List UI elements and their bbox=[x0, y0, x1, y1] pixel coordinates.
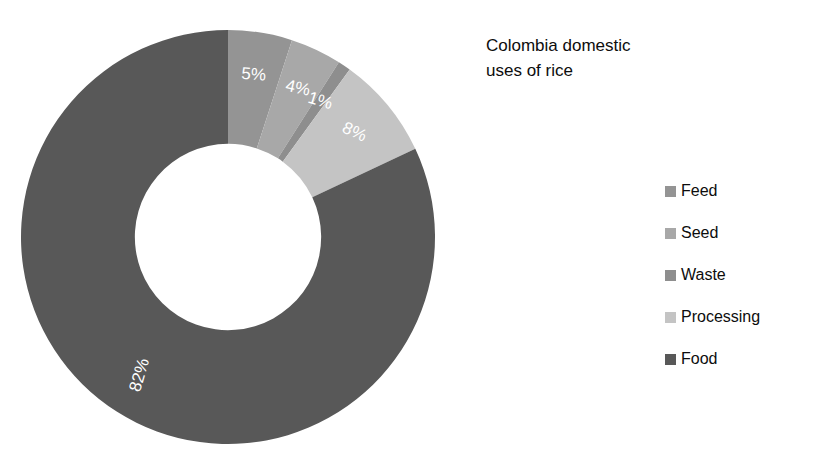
legend-swatch-icon bbox=[665, 354, 676, 365]
legend-item-waste[interactable]: Waste bbox=[665, 254, 810, 296]
chart-legend: FeedSeedWasteProcessingFood bbox=[665, 170, 810, 380]
legend-swatch-icon bbox=[665, 270, 676, 281]
legend-swatch-icon bbox=[665, 312, 676, 323]
legend-swatch-icon bbox=[665, 186, 676, 197]
legend-item-food[interactable]: Food bbox=[665, 338, 810, 380]
legend-item-label: Waste bbox=[681, 267, 726, 283]
legend-item-processing[interactable]: Processing bbox=[665, 296, 810, 338]
page-title: Colombia domestic uses of rice bbox=[486, 33, 716, 83]
legend-item-label: Seed bbox=[681, 225, 718, 241]
legend-swatch-icon bbox=[665, 228, 676, 239]
legend-item-seed[interactable]: Seed bbox=[665, 212, 810, 254]
donut-slice-group bbox=[21, 30, 435, 444]
donut-svg: 5%4%1%8%82% bbox=[18, 27, 438, 447]
chart-canvas: 5%4%1%8%82% Colombia domestic uses of ri… bbox=[0, 0, 817, 454]
legend-item-label: Food bbox=[681, 351, 717, 367]
legend-item-label: Processing bbox=[681, 309, 760, 325]
legend-item-feed[interactable]: Feed bbox=[665, 170, 810, 212]
legend-item-label: Feed bbox=[681, 183, 717, 199]
slice-label-feed: 5% bbox=[241, 64, 267, 85]
donut-chart: 5%4%1%8%82% bbox=[18, 27, 438, 447]
